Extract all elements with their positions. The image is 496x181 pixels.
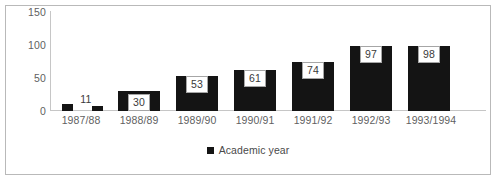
legend-label: Academic year (219, 145, 290, 156)
bar-value-label: 11 (75, 94, 97, 105)
chart-figure: 150 100 50 0 11 30 53 61 (0, 0, 496, 181)
bar[interactable] (62, 104, 73, 111)
bar-value-label: 30 (128, 94, 150, 111)
bar-stub (92, 106, 103, 111)
bar-value-label: 61 (244, 70, 266, 87)
bar-group: 53 (176, 11, 218, 111)
bar-value-label: 97 (360, 46, 382, 63)
category-axis-labels: 1987/88 1988/89 1989/90 1990/91 1991/92 … (50, 114, 484, 130)
bar-value-label: 53 (186, 76, 208, 93)
value-axis-tick-label: 0 (4, 106, 46, 117)
value-axis-tick-label: 50 (4, 73, 46, 84)
bar-group: 97 (350, 11, 392, 111)
bar-group: 30 (118, 11, 160, 111)
bars-layer: 11 30 53 61 74 97 98 (50, 11, 484, 111)
value-axis-tick-label: 150 (4, 7, 46, 18)
bar-value-label: 74 (302, 62, 324, 79)
bar-group: 98 (408, 11, 450, 111)
bar-value-label: 98 (418, 46, 440, 63)
bar-group: 74 (292, 11, 334, 111)
chart-legend: Academic year (0, 145, 496, 156)
legend-swatch-icon (207, 147, 214, 154)
bar-group: 61 (234, 11, 276, 111)
value-axis-tick-label: 100 (4, 40, 46, 51)
bar-group: 11 (60, 11, 102, 111)
category-label: 1993/1994 (391, 114, 471, 127)
